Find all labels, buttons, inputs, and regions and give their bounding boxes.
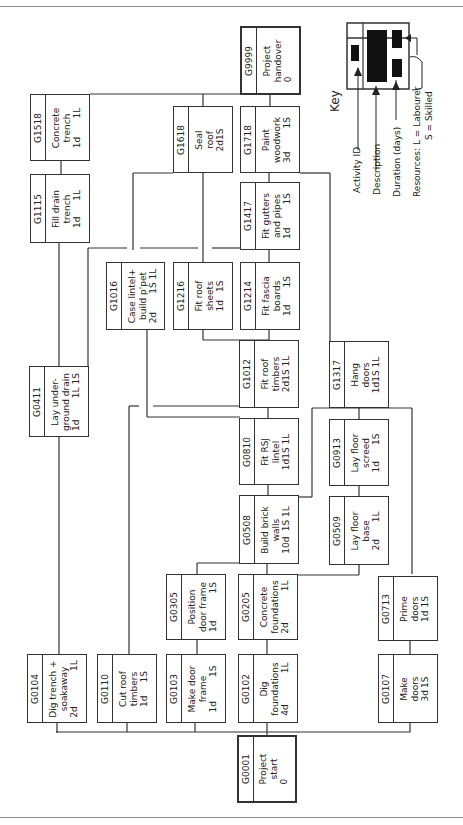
- description-line-2: walls: [271, 506, 282, 554]
- key-title: Key: [328, 90, 342, 112]
- resources: 1L 1S: [71, 373, 82, 398]
- activity-node-G1012[interactable]: G1012 Fit rooftimbers2d1S 1L: [239, 340, 299, 408]
- description-line-2: door frame: [198, 582, 209, 632]
- activity-node-G1718[interactable]: G1718 Paintwoodwork3d1S: [240, 106, 300, 173]
- resources: 1L: [280, 580, 291, 591]
- resources: 1L: [280, 662, 291, 673]
- activity-node-G0104[interactable]: G0104 Dig trench +soakaway2d1L: [27, 654, 87, 723]
- description-line-2: foundations: [270, 662, 281, 715]
- activity-node-G1016[interactable]: G1016 Case lintel+build p'pet2d1S 1L: [106, 262, 165, 330]
- description-line-2: build p'pet: [137, 269, 148, 324]
- description-line-1: Seal: [194, 128, 205, 151]
- resources: 1S 1L: [371, 356, 382, 381]
- duration: 2d: [69, 706, 80, 717]
- description-line-2: handover: [272, 39, 283, 82]
- activity-node-G1518[interactable]: G1518 Concretetrench1d1L: [30, 94, 90, 161]
- description-line-1: Fit roof: [194, 280, 205, 311]
- activity-id: G0107: [381, 674, 392, 704]
- duration: 2d: [280, 622, 291, 633]
- resources: 1L: [72, 107, 83, 118]
- description-line-2: woodwork: [272, 117, 283, 163]
- activity-node-G0508[interactable]: G0508 Build brickwalls10d1S 1L: [239, 495, 299, 564]
- description-line-1: Position: [187, 582, 198, 632]
- activity-node-G9999[interactable]: G9999 Projecthandover0: [240, 26, 301, 95]
- duration: 1d: [282, 227, 293, 238]
- activity-node-G0913[interactable]: G0913 Lay floorscreed1d1S: [329, 419, 389, 486]
- activity-id: G1216: [176, 281, 187, 311]
- description-line-2: and pipes: [272, 193, 283, 239]
- activity-node-G1317[interactable]: G1317 Hangdoors1d1S 1L: [329, 341, 389, 408]
- activity-node-G1214[interactable]: G1214 Fit fasciaboards1d1S: [240, 262, 300, 330]
- activity-id: G0305: [169, 592, 180, 622]
- resources: 1S 1L: [281, 506, 292, 531]
- duration: 1d: [215, 300, 226, 311]
- resources: 1S: [420, 676, 431, 687]
- description-line-2: timbers: [271, 356, 282, 393]
- description-line-1: Fit RSJ: [260, 433, 271, 470]
- description-line-2: base: [361, 511, 372, 550]
- duration: 1d: [208, 701, 219, 712]
- duration: 3d: [282, 151, 293, 162]
- activity-node-G1417[interactable]: G1417 Fit guttersand pipes1d1S: [240, 182, 300, 250]
- activity-id: G0509: [332, 516, 343, 546]
- key-labourer-label: L = Labourer: [412, 87, 422, 145]
- description-line-2: start: [269, 754, 280, 785]
- resources: 1S 1L: [281, 356, 292, 381]
- activity-node-G0713[interactable]: G0713 Primedoors1d1S: [378, 576, 438, 641]
- activity-node-G0411[interactable]: G0411 Lay under-ground drain1d1L 1S: [29, 366, 89, 437]
- resources: 1L: [371, 511, 382, 522]
- activity-id: G1115: [33, 194, 44, 224]
- duration: 0: [283, 76, 294, 82]
- activity-id: G1012: [242, 359, 253, 389]
- resources: 1S: [371, 433, 382, 444]
- activity-node-G1618[interactable]: G1618 Sealroof2d1S: [173, 106, 233, 173]
- duration: 0: [279, 779, 290, 785]
- activity-id: G0102: [241, 674, 252, 704]
- duration: 1d: [282, 304, 293, 315]
- resources: 1S: [215, 280, 226, 291]
- activity-node-G0107[interactable]: G0107 Makedoors3d1S: [378, 654, 438, 723]
- activity-node-G0810[interactable]: G0810 Fit RSJlintel1d1S 1L: [239, 418, 299, 485]
- duration: 2d: [281, 381, 292, 392]
- activity-id: G1317: [332, 360, 343, 390]
- description-line-2: roof: [205, 128, 216, 151]
- activity-node-G0110[interactable]: G0110 Cut rooftimbers1d1S: [97, 654, 157, 723]
- description-line-2: doors: [410, 596, 421, 622]
- activity-id: G0411: [32, 387, 43, 417]
- activity-node-G0001[interactable]: G0001 Projectstart0: [237, 735, 297, 803]
- resources: 1S: [208, 582, 219, 593]
- duration: 1d: [72, 216, 83, 227]
- duration: 4d: [280, 704, 291, 715]
- key-diagram: [345, 20, 463, 200]
- activity-id: G0104: [30, 674, 41, 704]
- activity-node-G0103[interactable]: G0103 Make doorframe1d1S: [166, 654, 226, 723]
- description-line-2: foundations: [270, 580, 281, 633]
- description-line-2: soakaway: [59, 660, 70, 717]
- description-line-2: ground drain: [61, 373, 72, 431]
- activity-node-G0205[interactable]: G0205 Concretefoundations2d1L: [238, 574, 298, 640]
- activity-node-G0305[interactable]: G0305 Positiondoor frame1d1S: [166, 574, 226, 640]
- activity-id: G1417: [243, 201, 254, 231]
- resources: 1S: [420, 596, 431, 607]
- description-line-2: lintel: [271, 433, 282, 470]
- description-line-1: Case lintel+: [127, 269, 138, 324]
- description-line-1: Project: [258, 754, 269, 785]
- activity-node-G0102[interactable]: G0102 Digfoundations4d1L: [238, 654, 298, 723]
- resources: 1L: [72, 189, 83, 200]
- description-line-1: Prime: [399, 596, 410, 622]
- activity-id: G0110: [100, 674, 111, 704]
- duration: 1d: [371, 381, 382, 392]
- duration: 10d: [281, 536, 292, 553]
- description-line-1: Project: [262, 39, 273, 82]
- activity-node-G1115[interactable]: G1115 Fill draintrench1d1L: [30, 174, 90, 243]
- description-line-1: Concrete: [259, 580, 270, 633]
- resources: 1S: [282, 117, 293, 128]
- resources: 1S 1L: [281, 433, 292, 458]
- activity-node-G1216[interactable]: G1216 Fit roofsheets1d1S: [173, 262, 233, 330]
- description-line-2: timbers: [129, 670, 140, 706]
- activity-id: G9999: [244, 46, 255, 76]
- description-line-1: Hang: [350, 356, 361, 393]
- description-line-1: Fit roof: [260, 356, 271, 393]
- duration: 2d: [148, 312, 159, 323]
- activity-node-G0509[interactable]: G0509 Lay floorbase2d1L: [329, 496, 389, 565]
